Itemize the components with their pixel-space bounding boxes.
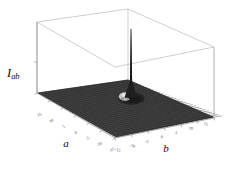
b-tick-label: 10 [188, 125, 193, 131]
z-axis-label: Iab [7, 66, 19, 81]
figure-3d-surface-plot: 15 10 5 0 -5 -10 -15 -15 -10 -5 0 5 10 1… [0, 0, 242, 173]
a-tick-label: 15 [36, 112, 42, 118]
a-tick-label: 10 [48, 118, 54, 124]
plot-canvas: 15 10 5 0 -5 -10 -15 -15 -10 -5 0 5 10 1… [0, 0, 242, 173]
a-axis-label: a [63, 137, 69, 149]
b-tick-label: 5 [175, 130, 178, 135]
a-tick-label: -10 [96, 141, 103, 148]
a-tick-label: 0 [74, 130, 78, 135]
a-tick-label: -5 [85, 135, 90, 141]
b-axis-label: b [163, 142, 169, 154]
b-tick-label: -10 [129, 143, 135, 149]
z-axis-label-subscript: ab [11, 71, 19, 81]
b-tick-label: -5 [145, 138, 149, 144]
b-tick-label: -15 [115, 147, 121, 153]
b-tick-label: 0 [160, 134, 163, 139]
z-axis [34, 22, 37, 93]
a-tick-label: 5 [62, 124, 66, 129]
b-tick-label: 15 [203, 121, 208, 127]
